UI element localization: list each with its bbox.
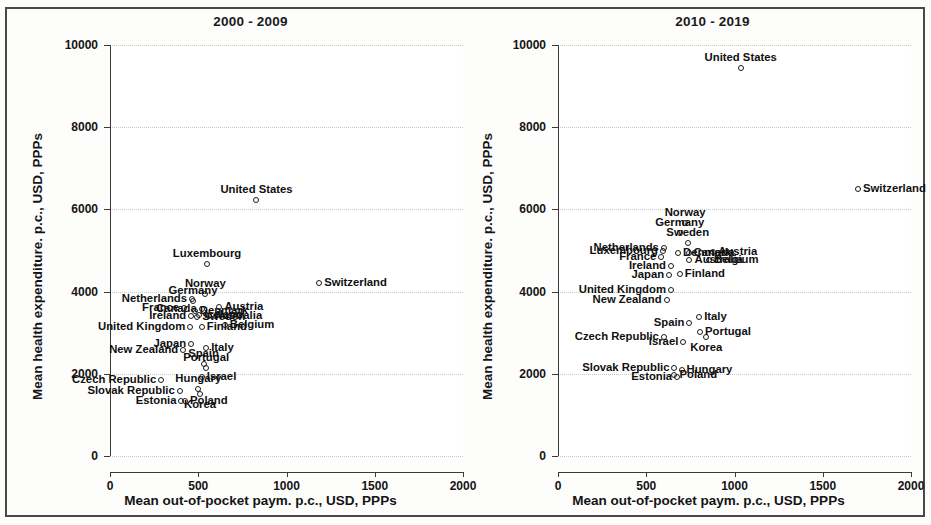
- data-point: [685, 240, 691, 246]
- y-axis-tick-label: 0: [539, 449, 546, 463]
- gridline-horizontal: [110, 456, 463, 457]
- data-point-label: Spain: [654, 317, 685, 328]
- plot-area: 02000400060008000100000500100015002000Un…: [110, 45, 463, 456]
- data-point: [204, 261, 210, 267]
- gridline-horizontal: [558, 456, 911, 457]
- data-point: [177, 388, 183, 394]
- x-axis-tick: [463, 472, 464, 477]
- figure-root: 2000 - 2009 Mean health expenditure. p.c…: [0, 0, 931, 525]
- x-axis-tick: [287, 472, 288, 477]
- data-point-label: Czech Republic: [575, 331, 659, 342]
- y-axis-line: [558, 45, 559, 456]
- y-axis-tick-label: 6000: [519, 202, 546, 216]
- gridline-horizontal: [558, 127, 911, 128]
- y-axis-tick: [552, 209, 558, 210]
- panel-2010-2019: 2010 - 2019 Mean health expenditure. p.c…: [466, 0, 931, 525]
- data-point-label: Poland: [190, 395, 228, 406]
- data-point: [697, 329, 703, 335]
- x-axis-tick-label: 500: [636, 479, 656, 493]
- plot-area: 02000400060008000100000500100015002000Un…: [558, 45, 911, 456]
- x-axis-tick-label: 1500: [361, 479, 388, 493]
- y-axis-tick-label: 4000: [71, 285, 98, 299]
- data-point-label: New Zealand: [592, 294, 661, 305]
- data-point-label: New Zealand: [109, 344, 178, 355]
- data-point: [696, 314, 702, 320]
- data-point-label: Estonia: [631, 371, 672, 382]
- data-point: [855, 186, 861, 192]
- data-point: [199, 324, 205, 330]
- x-axis-tick-label: 0: [107, 479, 114, 493]
- x-axis-tick: [198, 472, 199, 477]
- data-point-label: Switzerland: [863, 183, 926, 194]
- y-axis-tick-label: 0: [91, 449, 98, 463]
- x-axis-tick-label: 2000: [898, 479, 925, 493]
- gridline-horizontal: [110, 45, 463, 46]
- data-point: [660, 248, 666, 254]
- x-axis-title: Mean out-of-pocket paym. p.c., USD, PPPs: [466, 493, 931, 508]
- y-axis-tick-label: 8000: [519, 120, 546, 134]
- x-axis-tick: [375, 472, 376, 477]
- x-axis-tick: [558, 472, 559, 477]
- data-point-label: Luxembourg: [173, 247, 241, 258]
- y-axis-title: Mean health expenditure. p.c., USD, PPPs: [30, 133, 45, 400]
- y-axis-tick-label: 10000: [513, 38, 546, 52]
- x-axis-tick: [823, 472, 824, 477]
- y-axis-tick: [104, 127, 110, 128]
- panel-title: 2000 - 2009: [0, 14, 483, 29]
- y-axis-title: Mean health expenditure. p.c., USD, PPPs: [480, 133, 495, 400]
- y-axis-tick: [552, 374, 558, 375]
- data-point-label: Hungary: [175, 373, 221, 384]
- data-point-label: Portugal: [705, 326, 751, 337]
- x-axis-tick-label: 1000: [721, 479, 748, 493]
- data-point-label: Italy: [704, 311, 727, 322]
- x-axis-title: Mean out-of-pocket paym. p.c., USD, PPPs: [0, 493, 493, 508]
- y-axis-tick: [104, 45, 110, 46]
- gridline-horizontal: [558, 209, 911, 210]
- data-point: [674, 374, 680, 380]
- gridline-horizontal: [110, 127, 463, 128]
- data-point-label: Germany: [168, 285, 217, 296]
- x-axis-tick: [646, 472, 647, 477]
- data-point-label: Finland: [685, 269, 725, 280]
- y-axis-tick-label: 10000: [65, 38, 98, 52]
- gridline-horizontal: [558, 45, 911, 46]
- data-point-label: Estonia: [136, 396, 177, 407]
- data-point-label: Israel: [649, 336, 679, 347]
- y-axis-tick-label: 2000: [519, 367, 546, 381]
- data-point: [675, 250, 681, 256]
- data-point-label: Portugal: [183, 351, 229, 362]
- data-point-label: Poland: [679, 370, 717, 381]
- y-axis-tick: [552, 292, 558, 293]
- panel-2000-2009: 2000 - 2009 Mean health expenditure. p.c…: [0, 0, 465, 525]
- y-axis-tick-label: 6000: [71, 202, 98, 216]
- gridline-horizontal: [110, 209, 463, 210]
- y-axis-tick: [552, 127, 558, 128]
- x-axis-tick-label: 0: [555, 479, 562, 493]
- x-axis-tick-label: 1000: [273, 479, 300, 493]
- y-axis-tick-label: 8000: [71, 120, 98, 134]
- data-point: [316, 280, 322, 286]
- data-point-label: Korea: [690, 342, 722, 353]
- x-axis-tick: [735, 472, 736, 477]
- gridline-horizontal: [110, 374, 463, 375]
- data-point: [738, 65, 744, 71]
- data-point-label: Sweden: [666, 227, 709, 238]
- data-point-label: United States: [705, 52, 777, 63]
- y-axis-tick: [104, 209, 110, 210]
- x-axis-tick-label: 1500: [809, 479, 836, 493]
- data-point-label: United Kingdom: [98, 321, 185, 332]
- data-point-label: Japan: [632, 270, 665, 281]
- y-axis-tick: [552, 45, 558, 46]
- data-point: [664, 297, 670, 303]
- x-axis-tick: [911, 472, 912, 477]
- x-axis-tick-label: 500: [188, 479, 208, 493]
- data-point-label: United States: [220, 184, 292, 195]
- panel-title: 2010 - 2019: [466, 14, 931, 29]
- data-point: [187, 324, 193, 330]
- y-axis-tick: [104, 292, 110, 293]
- x-axis-tick: [110, 472, 111, 477]
- y-axis-tick-label: 4000: [519, 285, 546, 299]
- y-axis-tick: [104, 456, 110, 457]
- data-point-label: Finland: [207, 321, 247, 332]
- y-axis-tick: [552, 456, 558, 457]
